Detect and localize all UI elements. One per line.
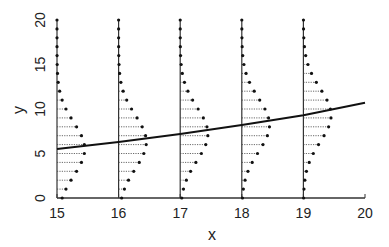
density-point: [320, 90, 323, 93]
density-point: [117, 54, 120, 57]
density-point: [197, 107, 200, 110]
density-point: [261, 143, 264, 146]
density-point: [142, 152, 145, 155]
density-point: [56, 72, 59, 75]
density-point: [242, 188, 245, 191]
density-point: [302, 188, 305, 191]
stem-group: [179, 18, 210, 199]
density-point: [327, 125, 330, 128]
density-point: [185, 179, 188, 182]
mean-curve-line: [57, 103, 365, 149]
density-point: [302, 18, 305, 21]
density-point: [64, 107, 67, 110]
x-tick-label: 19: [296, 205, 312, 221]
x-tick-label: 18: [234, 205, 250, 221]
density-point: [312, 152, 315, 155]
density-point: [302, 36, 305, 39]
y-tick-label: 0: [32, 194, 48, 202]
density-point: [329, 116, 332, 119]
density-point: [315, 81, 318, 84]
density-point: [138, 161, 141, 164]
density-point: [248, 81, 251, 84]
density-point: [241, 54, 244, 57]
density-point: [253, 90, 256, 93]
density-point: [266, 134, 269, 137]
density-point: [55, 54, 58, 57]
density-point: [267, 116, 270, 119]
density-point: [55, 18, 58, 21]
y-axis-label: y: [10, 106, 27, 114]
density-point: [123, 188, 126, 191]
density-point: [75, 170, 78, 173]
density-point: [117, 45, 120, 48]
density-point: [117, 27, 120, 30]
density-point: [325, 99, 328, 102]
stem-group: [302, 18, 333, 199]
density-point: [310, 72, 313, 75]
density-point: [122, 90, 125, 93]
density-point: [119, 81, 122, 84]
density-point: [117, 36, 120, 39]
density-point: [303, 179, 306, 182]
density-point: [240, 36, 243, 39]
density-point: [246, 170, 249, 173]
density-point: [80, 134, 83, 137]
density-point: [317, 143, 320, 146]
x-tick-label: 15: [49, 205, 65, 221]
density-point: [58, 90, 61, 93]
density-point: [204, 143, 207, 146]
density-point: [302, 196, 305, 199]
density-point: [141, 125, 144, 128]
density-point: [145, 143, 148, 146]
density-point: [200, 152, 203, 155]
density-point: [132, 170, 135, 173]
density-point: [306, 63, 309, 66]
density-point: [194, 161, 197, 164]
density-stems: [55, 18, 332, 199]
density-point: [202, 116, 205, 119]
density-point: [125, 99, 128, 102]
density-point: [240, 27, 243, 30]
density-point: [243, 179, 246, 182]
density-point: [55, 45, 58, 48]
density-point: [322, 134, 325, 137]
density-point: [268, 125, 271, 128]
density-point: [205, 125, 208, 128]
density-point: [179, 36, 182, 39]
x-tick-label: 20: [357, 205, 373, 221]
y-tick-label: 20: [32, 12, 48, 28]
density-point: [61, 196, 64, 199]
density-point: [183, 81, 186, 84]
density-point: [179, 18, 182, 21]
density-point: [120, 196, 123, 199]
density-point: [189, 170, 192, 173]
density-point: [305, 170, 308, 173]
density-point: [181, 72, 184, 75]
density-point: [179, 54, 182, 57]
density-point: [244, 72, 247, 75]
axes: 15161718192005101520: [32, 12, 373, 221]
density-point: [56, 63, 59, 66]
density-point: [117, 18, 120, 21]
density-point: [308, 161, 311, 164]
density-point: [263, 107, 266, 110]
density-point: [180, 196, 183, 199]
density-point: [241, 196, 244, 199]
density-point: [242, 63, 245, 66]
density-point: [130, 107, 133, 110]
density-point: [135, 116, 138, 119]
mean-curve: [57, 103, 365, 149]
density-point: [69, 116, 72, 119]
density-point: [256, 152, 259, 155]
density-point: [258, 99, 261, 102]
density-point: [241, 45, 244, 48]
density-point: [117, 63, 120, 66]
x-tick-label: 17: [172, 205, 188, 221]
density-point: [64, 188, 67, 191]
stem-group: [117, 18, 148, 199]
density-point: [83, 152, 86, 155]
density-point: [179, 45, 182, 48]
y-tick-label: 15: [32, 57, 48, 73]
density-point: [251, 161, 254, 164]
density-point: [240, 18, 243, 21]
